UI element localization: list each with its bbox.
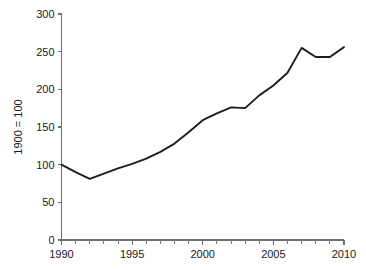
x-tick-label-2005: 2005	[261, 248, 285, 260]
y-axis-tick-labels: 050100150200250300	[36, 8, 54, 246]
y-tick-label-150: 150	[36, 121, 54, 133]
y-tick-label-50: 50	[42, 196, 54, 208]
x-axis-tick-labels: 19901995200020052010	[49, 248, 356, 260]
y-axis-ticks	[58, 14, 62, 240]
y-tick-label-250: 250	[36, 46, 54, 58]
y-tick-label-0: 0	[48, 234, 54, 246]
data-series	[62, 47, 345, 179]
x-tick-label-1990: 1990	[49, 248, 73, 260]
y-axis-title: 1900 = 100	[12, 99, 24, 154]
series-line-index	[62, 47, 345, 179]
line-chart: 050100150200250300 19901995200020052010 …	[0, 0, 366, 270]
y-tick-label-200: 200	[36, 83, 54, 95]
x-tick-label-2010: 2010	[332, 248, 356, 260]
x-tick-label-1995: 1995	[120, 248, 144, 260]
y-tick-label-100: 100	[36, 159, 54, 171]
x-tick-label-2000: 2000	[191, 248, 215, 260]
y-tick-label-300: 300	[36, 8, 54, 20]
chart-canvas: 050100150200250300 19901995200020052010 …	[0, 0, 366, 270]
